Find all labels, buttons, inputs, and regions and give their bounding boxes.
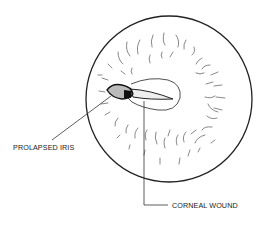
iris-dark-edge	[124, 90, 132, 98]
prolapsed-iris-leader	[52, 96, 111, 140]
corneal-wound-leader	[144, 101, 168, 205]
prolapsed-iris-label: PROLAPSED IRIS	[13, 143, 74, 152]
corneal-wound-label: CORNEAL WOUND	[172, 201, 238, 210]
eye-diagram	[0, 0, 260, 229]
corneal-wound-shape	[130, 89, 173, 99]
